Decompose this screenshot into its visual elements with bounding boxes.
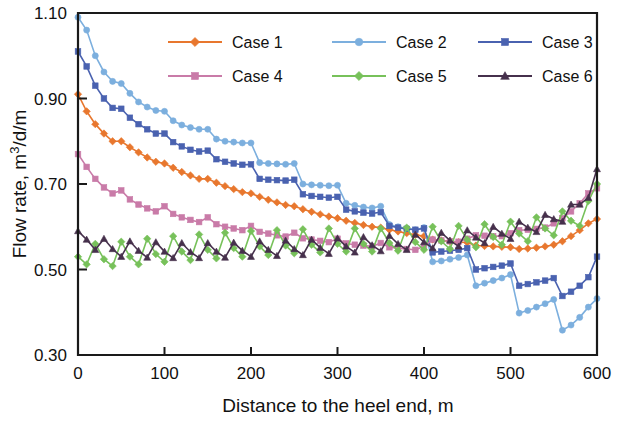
data-point: [387, 223, 393, 229]
data-point: [516, 310, 522, 316]
legend-label: Case 5: [396, 68, 447, 85]
data-point: [204, 240, 211, 246]
legend-item-case-2[interactable]: Case 2: [332, 34, 447, 51]
x-tick-group: 0100200300400500600: [73, 347, 611, 383]
data-point: [187, 125, 193, 131]
data-point: [92, 53, 98, 59]
data-point: [179, 122, 185, 128]
data-point: [231, 139, 237, 145]
data-point: [430, 259, 436, 265]
data-point: [127, 115, 133, 121]
data-point: [265, 196, 272, 203]
data-point: [516, 218, 523, 224]
legend-item-case-1[interactable]: Case 1: [168, 34, 283, 51]
data-point: [101, 96, 107, 102]
data-point: [179, 215, 185, 221]
legend-item-case-3[interactable]: Case 3: [478, 34, 593, 51]
legend-marker-swatch: [192, 73, 199, 80]
data-point: [257, 229, 263, 235]
data-point: [195, 231, 202, 238]
legend-marker-swatch: [355, 38, 363, 46]
x-tick-label: 0: [73, 364, 82, 383]
data-point: [257, 160, 263, 166]
legend-label: Case 2: [396, 34, 447, 51]
data-point: [144, 206, 150, 212]
data-point: [577, 314, 583, 320]
data-point: [361, 210, 367, 216]
legend-label: Case 4: [232, 68, 283, 85]
data-point: [542, 211, 549, 217]
data-point: [265, 177, 271, 183]
data-point: [490, 264, 496, 270]
data-point: [499, 263, 505, 269]
data-point: [482, 265, 488, 271]
data-point: [429, 223, 436, 230]
data-point: [205, 215, 211, 221]
legend-marker-swatch: [190, 37, 199, 46]
y-tick-label: 1.10: [34, 4, 67, 23]
data-point: [551, 275, 557, 281]
data-point: [334, 182, 340, 188]
data-point: [221, 229, 228, 236]
data-point: [342, 217, 349, 224]
data-point: [481, 240, 488, 246]
data-point: [335, 194, 341, 200]
data-point: [299, 206, 306, 213]
data-point: [161, 160, 168, 167]
data-point: [551, 296, 557, 302]
data-point: [100, 235, 107, 241]
legend-marker-swatch: [502, 39, 509, 46]
data-point: [240, 227, 246, 233]
data-point: [482, 280, 488, 286]
data-point: [317, 211, 324, 218]
data-point: [421, 226, 427, 232]
legend-item-case-4[interactable]: Case 4: [168, 68, 283, 85]
data-point: [317, 238, 323, 244]
data-point: [136, 99, 142, 105]
data-point: [299, 226, 306, 233]
data-point: [118, 188, 124, 194]
data-point: [378, 240, 384, 246]
flow-rate-line-chart: 0100200300400500600 0.300.500.700.901.10…: [0, 0, 621, 422]
data-point: [152, 239, 159, 245]
data-point: [162, 131, 168, 137]
data-point: [300, 181, 306, 187]
data-point: [231, 226, 237, 232]
data-point: [239, 188, 246, 195]
data-point: [188, 147, 194, 153]
data-point: [438, 249, 444, 255]
data-point: [447, 256, 453, 262]
data-point: [568, 322, 574, 328]
data-point: [377, 225, 384, 232]
data-point: [490, 278, 496, 284]
legend-marker-swatch: [354, 71, 363, 80]
data-point: [300, 191, 306, 197]
data-point: [585, 304, 591, 310]
data-point: [169, 164, 176, 171]
data-point: [334, 215, 341, 222]
series-case-3: [75, 49, 600, 299]
data-point: [214, 221, 220, 227]
data-point: [178, 168, 185, 175]
data-point: [533, 304, 539, 310]
data-point: [187, 172, 194, 179]
data-point: [351, 225, 358, 232]
y-tick-label: 0.90: [34, 90, 67, 109]
legend-item-case-6[interactable]: Case 6: [478, 68, 593, 85]
series-markers: [75, 49, 600, 299]
data-point: [144, 104, 150, 110]
data-point: [490, 223, 497, 229]
data-point: [196, 149, 202, 155]
data-point: [118, 106, 124, 112]
data-point: [153, 131, 159, 137]
data-point: [291, 203, 298, 210]
data-point: [84, 27, 90, 33]
legend-item-case-5[interactable]: Case 5: [332, 68, 447, 85]
data-point: [213, 179, 220, 186]
data-point: [222, 138, 228, 144]
data-point: [92, 176, 98, 182]
data-point: [464, 245, 470, 251]
data-point: [118, 238, 125, 245]
data-point: [368, 223, 375, 230]
data-point: [550, 241, 557, 248]
